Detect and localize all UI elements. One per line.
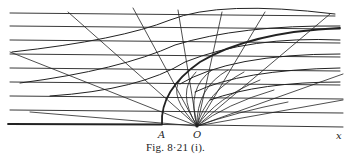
label-O: O — [193, 130, 201, 140]
horizontal-lines — [10, 13, 343, 113]
diagram-canvas — [0, 0, 351, 159]
origin-point — [195, 124, 198, 127]
label-A: A — [158, 130, 165, 140]
figure-8-21: A O x Fig. 8·21 (i). — [0, 0, 351, 159]
label-x: x — [336, 131, 342, 141]
baseline-left — [8, 124, 162, 125]
baseline-right — [162, 125, 343, 128]
figure-caption: Fig. 8·21 (i). — [146, 142, 205, 153]
